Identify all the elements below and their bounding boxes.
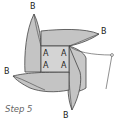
label-a-bottom-left: A [43,62,48,70]
pin-shaft [106,55,112,89]
pin-head [111,54,114,57]
label-a-top-right: A [61,50,66,58]
label-b-bottom: B [63,112,69,120]
petal-left [13,72,69,92]
step-caption: Step 5 [5,104,32,114]
label-a-bottom-right: A [61,62,66,70]
label-b-left: B [4,68,10,76]
label-b-top: B [30,3,36,11]
label-b-right: B [101,28,107,36]
petal-top [25,14,41,72]
label-a-top-left: A [43,50,48,58]
